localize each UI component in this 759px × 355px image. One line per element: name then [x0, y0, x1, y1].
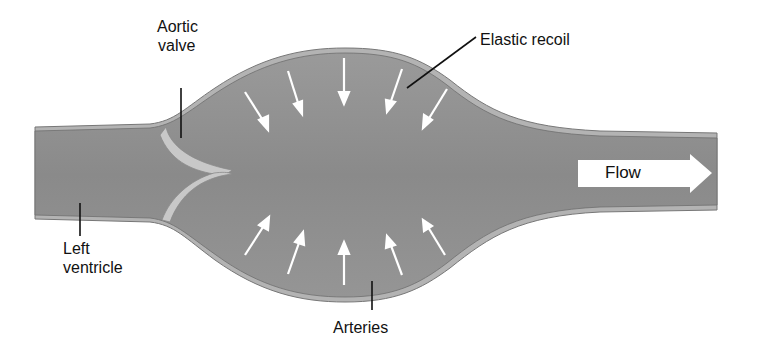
left-ventricle-label: Left ventricle — [63, 239, 123, 277]
left-ventricle-label-line1: Left — [63, 239, 123, 258]
aortic-valve-label-line2: valve — [157, 36, 198, 55]
left-ventricle-label-line2: ventricle — [63, 258, 123, 277]
artery-diagram — [0, 0, 759, 355]
aortic-valve-label: Aortic valve — [157, 17, 198, 55]
aortic-valve-label-line1: Aortic — [157, 17, 198, 36]
elastic-recoil-label: Elastic recoil — [480, 30, 570, 49]
flow-label: Flow — [605, 163, 641, 183]
arteries-label: Arteries — [333, 318, 388, 337]
